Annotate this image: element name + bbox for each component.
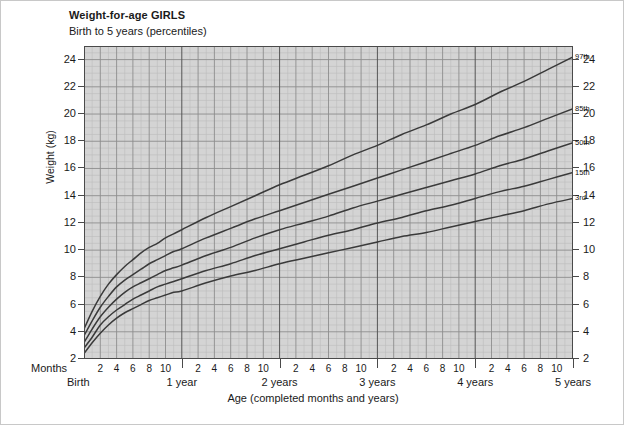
y-tick-mark-left bbox=[78, 59, 84, 60]
percentile-label-85th: 85th bbox=[575, 104, 590, 113]
x-tick-label-month: 2 bbox=[483, 363, 501, 374]
x-tick-label-month: 6 bbox=[124, 363, 142, 374]
x-tick-label-month: 4 bbox=[303, 363, 321, 374]
months-caption: Months bbox=[31, 362, 67, 374]
x-year-tick-mark bbox=[475, 359, 476, 368]
x-tick-label-month: 10 bbox=[157, 363, 175, 374]
x-tick-label-month: 2 bbox=[91, 363, 109, 374]
x-tick-label-month: 6 bbox=[417, 363, 435, 374]
chart-page: Weight-for-age GIRLS Birth to 5 years (p… bbox=[0, 0, 624, 425]
y-tick-mark-right bbox=[573, 249, 579, 250]
x-tick-label-month: 6 bbox=[222, 363, 240, 374]
y-tick-label-left: 4 bbox=[50, 325, 76, 337]
x-year-label: 2 years bbox=[250, 376, 310, 388]
x-tick-label-month: 8 bbox=[238, 363, 256, 374]
y-tick-label-right: 22 bbox=[583, 80, 609, 92]
x-year-label: 3 years bbox=[347, 376, 407, 388]
y-tick-mark-right bbox=[573, 113, 579, 114]
x-tick-label-month: 4 bbox=[108, 363, 126, 374]
x-tick-label-month: 2 bbox=[385, 363, 403, 374]
y-tick-mark-right bbox=[573, 304, 579, 305]
x-year-tick-mark bbox=[377, 359, 378, 368]
y-tick-label-left: 22 bbox=[50, 80, 76, 92]
plot-area bbox=[84, 46, 573, 359]
x-tick-label-month: 8 bbox=[336, 363, 354, 374]
y-tick-label-left: 16 bbox=[50, 161, 76, 173]
x-tick-label-month: 2 bbox=[189, 363, 207, 374]
y-tick-label-right: 4 bbox=[583, 325, 609, 337]
y-tick-label-right: 10 bbox=[583, 243, 609, 255]
y-tick-label-left: 12 bbox=[50, 216, 76, 228]
y-tick-label-right: 14 bbox=[583, 189, 609, 201]
page-title: Weight-for-age GIRLS bbox=[69, 9, 185, 21]
x-tick-label-month: 2 bbox=[287, 363, 305, 374]
x-year-tick-mark bbox=[573, 359, 574, 368]
x-year-tick-mark bbox=[280, 359, 281, 368]
percentile-label-15th: 15th bbox=[575, 168, 590, 177]
y-tick-mark-left bbox=[78, 358, 84, 359]
y-tick-mark-left bbox=[78, 113, 84, 114]
x-year-label: 4 years bbox=[445, 376, 505, 388]
x-tick-label-month: 6 bbox=[320, 363, 338, 374]
y-tick-mark-right bbox=[573, 222, 579, 223]
x-tick-label-month: 10 bbox=[450, 363, 468, 374]
y-tick-label-left: 20 bbox=[50, 107, 76, 119]
x-tick-label-month: 10 bbox=[254, 363, 272, 374]
page-subtitle: Birth to 5 years (percentiles) bbox=[69, 25, 207, 37]
growth-chart-svg bbox=[84, 46, 573, 359]
birth-caption: Birth bbox=[67, 376, 90, 388]
y-tick-label-left: 10 bbox=[50, 243, 76, 255]
y-tick-mark-right bbox=[573, 86, 579, 87]
y-tick-mark-left bbox=[78, 140, 84, 141]
y-tick-label-left: 18 bbox=[50, 134, 76, 146]
y-tick-label-right: 2 bbox=[583, 352, 609, 364]
x-year-label: 1 year bbox=[152, 376, 212, 388]
x-year-tick-mark bbox=[182, 359, 183, 368]
y-tick-mark-left bbox=[78, 304, 84, 305]
y-tick-mark-left bbox=[78, 222, 84, 223]
y-tick-mark-left bbox=[78, 276, 84, 277]
x-year-label: 5 years bbox=[543, 376, 603, 388]
x-tick-label-month: 6 bbox=[515, 363, 533, 374]
x-axis-title: Age (completed months and years) bbox=[1, 392, 624, 404]
x-tick-label-month: 10 bbox=[352, 363, 370, 374]
x-tick-label-month: 4 bbox=[401, 363, 419, 374]
y-tick-label-left: 6 bbox=[50, 298, 76, 310]
x-tick-label-month: 4 bbox=[499, 363, 517, 374]
percentile-label-97th: 97th bbox=[575, 52, 590, 61]
y-tick-mark-left bbox=[78, 86, 84, 87]
percentile-label-50th: 50th bbox=[575, 138, 590, 147]
y-tick-mark-left bbox=[78, 249, 84, 250]
x-tick-label-month: 8 bbox=[140, 363, 158, 374]
percentile-label-3rd: 3rd bbox=[575, 193, 586, 202]
y-tick-label-right: 12 bbox=[583, 216, 609, 228]
y-tick-label-right: 8 bbox=[583, 270, 609, 282]
y-tick-mark-right bbox=[573, 331, 579, 332]
y-tick-label-right: 6 bbox=[583, 298, 609, 310]
y-tick-label-left: 24 bbox=[50, 53, 76, 65]
x-tick-label-month: 8 bbox=[434, 363, 452, 374]
y-tick-mark-left bbox=[78, 167, 84, 168]
x-tick-label-month: 4 bbox=[205, 363, 223, 374]
y-tick-label-left: 8 bbox=[50, 270, 76, 282]
y-tick-mark-right bbox=[573, 276, 579, 277]
y-tick-label-left: 14 bbox=[50, 189, 76, 201]
y-tick-mark-left bbox=[78, 195, 84, 196]
x-tick-label-month: 10 bbox=[548, 363, 566, 374]
x-tick-label-month: 8 bbox=[531, 363, 549, 374]
y-tick-mark-left bbox=[78, 331, 84, 332]
